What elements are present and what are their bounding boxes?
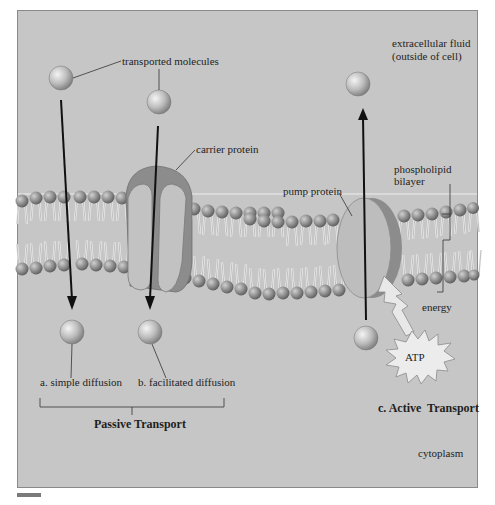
carrier-protein-shape [126, 166, 192, 292]
page-corner-mark [17, 493, 41, 497]
label-transported-molecules: transported molecules [122, 55, 219, 68]
label-cytoplasm: cytoplasm [418, 447, 463, 460]
label-passive-transport: Passive Transport [94, 418, 186, 431]
bilayer-left [16, 191, 131, 276]
label-pump-protein: pump protein [283, 185, 342, 198]
label-facilitated-diffusion: b. facilitated diffusion [138, 376, 235, 389]
label-atp: ATP [405, 351, 425, 364]
membrane-diagram [0, 0, 495, 505]
label-bilayer: bilayer [394, 175, 425, 188]
pump-protein-shape [337, 198, 402, 298]
bilayer-right [398, 202, 482, 287]
label-extracellular-line1: extracellular fluid [392, 37, 471, 50]
label-energy: energy [422, 301, 452, 314]
label-extracellular-line2: (outside of cell) [392, 50, 462, 63]
label-carrier-protein: carrier protein [196, 143, 259, 156]
bilayer-middle [179, 203, 346, 301]
label-active-transport: c. Active Transport [378, 402, 479, 415]
label-simple-diffusion: a. simple diffusion [40, 376, 122, 389]
